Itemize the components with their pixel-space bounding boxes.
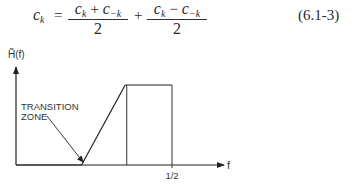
annotation-line-2: ZONE [21, 111, 47, 122]
series-layer [16, 85, 172, 165]
y-axis-label: H̃(f) [8, 48, 25, 60]
frequency-response-figure: H̃(f) f 1/2 TRANSITION ZONE [0, 0, 352, 194]
reference-lines [127, 85, 172, 168]
x-tick-label: 1/2 [165, 170, 178, 181]
annotation-leader-arrow [47, 116, 83, 162]
x-axis-label: f [227, 159, 231, 171]
series-segment [82, 85, 126, 165]
x-ticks: 1/2 [165, 170, 178, 181]
